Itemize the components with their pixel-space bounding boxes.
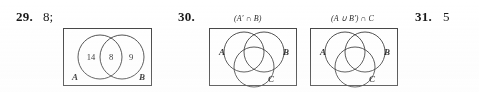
venn-set-label-a: A [72, 72, 78, 82]
venn-b-set-label-b: B [384, 47, 390, 57]
answer-key-page: 29. 8; 14 8 9 A B 30. (A′ ∩ B) A B C (A … [0, 0, 479, 92]
venn-diagram-three-set-a: A B C [209, 28, 297, 86]
answer-value-29: 8; [43, 9, 53, 25]
exercise-number-29: 29. [16, 9, 33, 25]
venn-three-set-b-circles [311, 29, 399, 87]
venn-set-label-b: B [139, 72, 145, 82]
venn-b-set-label-a: A [320, 47, 326, 57]
venn-b-set-label-c: C [369, 74, 375, 84]
venn-diagram-three-set-b: A B C [310, 28, 398, 86]
venn-three-set-a-circles [210, 29, 298, 87]
venn-diagram-two-set: 14 8 9 A B [63, 28, 152, 86]
venn-a-set-label-b: B [283, 47, 289, 57]
exercise-number-31: 31. [415, 9, 432, 25]
venn-region-a-and-b-value: 8 [104, 52, 118, 62]
answer-value-31: 5 [443, 9, 450, 25]
venn-caption-a-union-b-complement-intersect-c: (A ∪ B′) ∩ C [331, 14, 374, 23]
venn-a-set-label-a: A [219, 47, 225, 57]
exercise-number-30: 30. [178, 9, 195, 25]
venn-a-set-label-c: C [268, 74, 274, 84]
venn-region-a-only-value: 14 [84, 52, 98, 62]
venn-caption-a-complement-intersect-b: (A′ ∩ B) [234, 14, 261, 23]
venn-region-b-only-value: 9 [124, 52, 138, 62]
